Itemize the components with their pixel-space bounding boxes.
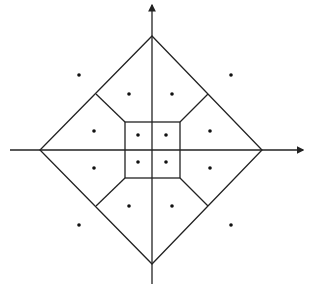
- outer-site-point: [77, 73, 81, 77]
- inner-site-point: [164, 133, 168, 137]
- cell-edge: [180, 94, 208, 122]
- inner-site-point: [136, 133, 140, 137]
- middle-site-point: [92, 129, 96, 133]
- voronoi-diagram: [0, 0, 310, 288]
- cell-edge: [96, 94, 125, 122]
- cell-edge: [96, 178, 125, 206]
- middle-site-point: [127, 92, 131, 96]
- middle-site-point: [170, 92, 174, 96]
- middle-site-point: [208, 166, 212, 170]
- middle-site-point: [127, 204, 131, 208]
- middle-site-point: [92, 166, 96, 170]
- coordinate-axes: [10, 5, 303, 284]
- outer-site-point: [229, 223, 233, 227]
- inner-site-point: [164, 160, 168, 164]
- outer-site-point: [77, 223, 81, 227]
- inner-site-point: [136, 160, 140, 164]
- middle-site-point: [170, 204, 174, 208]
- middle-site-point: [208, 129, 212, 133]
- cell-edge: [180, 178, 208, 206]
- outer-site-point: [229, 73, 233, 77]
